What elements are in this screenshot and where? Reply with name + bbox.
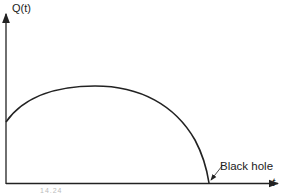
q-curve	[6, 86, 209, 183]
black-hole-annotation: Black hole	[220, 160, 273, 172]
figure-number: 14.24	[40, 187, 63, 194]
y-axis-label: Q(t)	[12, 2, 31, 14]
x-axis-label: t	[272, 176, 275, 188]
